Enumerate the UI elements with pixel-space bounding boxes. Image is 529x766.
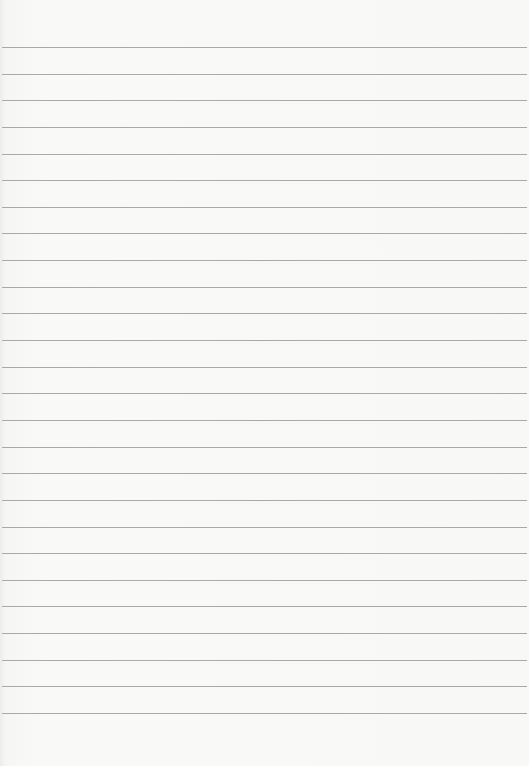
- ruled-line: [2, 580, 527, 581]
- ruled-line: [2, 207, 527, 208]
- ruled-line: [2, 447, 527, 448]
- ruled-line: [2, 606, 527, 607]
- ruled-line: [2, 527, 527, 528]
- ruled-line: [2, 313, 527, 314]
- ruled-line: [2, 713, 527, 714]
- ruled-line: [2, 340, 527, 341]
- ruled-paper: [0, 0, 529, 766]
- ruled-line: [2, 180, 527, 181]
- ruled-line: [2, 393, 527, 394]
- ruled-line: [2, 633, 527, 634]
- ruled-line: [2, 367, 527, 368]
- ruled-line: [2, 47, 527, 48]
- ruled-line: [2, 473, 527, 474]
- ruled-line: [2, 100, 527, 101]
- ruled-line: [2, 154, 527, 155]
- ruled-line: [2, 553, 527, 554]
- ruled-line: [2, 686, 527, 687]
- ruled-line: [2, 500, 527, 501]
- ruled-line: [2, 127, 527, 128]
- ruled-line: [2, 260, 527, 261]
- ruled-line: [2, 74, 527, 75]
- ruled-line: [2, 660, 527, 661]
- ruled-line: [2, 233, 527, 234]
- ruled-line: [2, 287, 527, 288]
- ruled-line: [2, 420, 527, 421]
